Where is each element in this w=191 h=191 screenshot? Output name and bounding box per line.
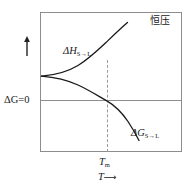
x-axis-direction-arrow-icon: ⟶ — [104, 172, 117, 182]
delta-g-curve — [42, 76, 140, 140]
thermodynamics-figure: 恒压 ΔHS→L ΔGS→L ΔG=0 Tm T⟶ — [0, 0, 191, 191]
delta-h-symbol: ΔH — [63, 45, 77, 56]
melting-temperature-label: Tm — [99, 157, 110, 168]
delta-g-symbol: ΔG — [131, 127, 145, 138]
delta-g-subscript: S→L — [145, 132, 160, 139]
delta-g-curve-label: ΔGS→L — [131, 128, 159, 139]
constant-pressure-label: 恒压 — [150, 16, 170, 26]
delta-h-subscript: S→L — [77, 50, 92, 57]
tm-subscript: m — [105, 161, 110, 168]
x-axis-label: T⟶ — [98, 172, 117, 183]
delta-h-curve-label: ΔHS→L — [63, 46, 91, 57]
delta-g-zero-label: ΔG=0 — [4, 95, 30, 106]
